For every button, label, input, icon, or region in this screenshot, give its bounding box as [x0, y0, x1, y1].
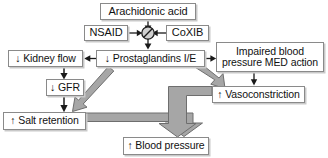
node-label: ↑ Vasoconstriction [217, 89, 300, 100]
node-arachidonic-acid[interactable]: Arachidonic acid [100, 3, 196, 20]
node-label: ↑ Blood pressure [127, 140, 204, 151]
node-label: ↑ Salt retention [10, 115, 78, 126]
edge-inhibition-to-prostaglandins [145, 39, 152, 50]
node-label: Arachidonic acid [108, 6, 187, 18]
node-impaired-blood-pressure-med-action[interactable]: Impaired blood pressure MED action [216, 42, 324, 72]
node-nsaid[interactable]: NSAID [84, 25, 128, 41]
node-label: ↓ Kidney flow [15, 53, 76, 64]
edge-gfr-to-salt-retention [60, 96, 67, 112]
edge-prostaglandins-to-kidney-flow [84, 55, 96, 61]
edge-kidney-flow-to-gfr [60, 67, 67, 79]
node-label: CoXIB [172, 27, 203, 39]
node-kidney-flow[interactable]: ↓ Kidney flow [8, 50, 83, 67]
pathway-diagram: Arachidonic acid NSAID CoXIB ↓ Kidney fl… [0, 0, 328, 158]
node-label: ↓ Prostaglandins I/E [105, 53, 196, 64]
node-vasoconstriction[interactable]: ↑ Vasoconstriction [212, 86, 305, 103]
node-blood-pressure[interactable]: ↑ Blood pressure [123, 137, 209, 155]
node-coxib[interactable]: CoXIB [166, 25, 209, 41]
node-gfr[interactable]: ↓ GFR [46, 79, 84, 96]
edge-nsaid-to-inhibition [128, 30, 142, 36]
inhibition-circle-icon [142, 27, 154, 39]
node-label: NSAID [89, 27, 122, 39]
node-prostaglandins[interactable]: ↓ Prostaglandins I/E [96, 50, 205, 67]
node-label: ↓ GFR [50, 82, 80, 93]
node-label-line2: pressure MED action [222, 57, 318, 68]
node-salt-retention[interactable]: ↑ Salt retention [3, 112, 86, 130]
edge-impaired-to-vasoconstriction [251, 72, 257, 85]
edge-vasoconstriction-to-blood-pressure-thick [159, 87, 212, 138]
edge-prostaglandins-to-impaired [205, 55, 216, 61]
